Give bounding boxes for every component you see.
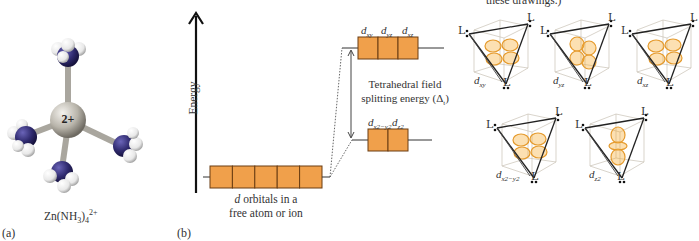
lone-pair-dot [529, 25, 532, 28]
cube-edge [502, 114, 528, 124]
orbital-lobe [513, 134, 529, 146]
ligand-label: L [555, 105, 562, 118]
tetrahedron-edge [497, 118, 556, 128]
ligand-label: L [690, 11, 697, 24]
ligand-label: L [575, 118, 582, 131]
ligand-label: L [503, 76, 510, 89]
tetrahedron-edge [550, 24, 609, 34]
tetra-label-dxz: dxz [637, 74, 648, 89]
ligand-label: L [540, 24, 547, 37]
orbital-lobe [649, 53, 665, 65]
tetra-label-dx2-y2: dx2−y2 [496, 168, 519, 183]
ligand-label: L [458, 24, 465, 37]
lone-pair-dot [557, 119, 560, 122]
lone-pair-dot [629, 30, 632, 33]
lone-pair-dot [692, 25, 695, 28]
orbital-lobe [665, 39, 681, 51]
cube-edge [474, 20, 500, 30]
tetrahedron-edge [469, 24, 528, 34]
cube-edge [555, 20, 581, 30]
orbital-lobe [485, 40, 501, 52]
ligand-label: L [531, 170, 538, 183]
tetrahedra-drawings [0, 0, 699, 241]
orbital-lobe [611, 127, 625, 143]
ligand-label: L [608, 11, 615, 24]
ligand-label: L [584, 76, 591, 89]
lone-pair-dot [629, 35, 632, 38]
lone-pair-dot [494, 129, 497, 132]
ligand-label: L [666, 76, 673, 89]
orbital-lobe [514, 147, 530, 159]
orbital-lobe [609, 142, 627, 150]
tetrahedron-edge [632, 24, 691, 34]
cube-edge [590, 114, 616, 124]
tetra-label-dz2: dz2 [589, 168, 601, 183]
orbital-lobe [648, 40, 664, 52]
ligand-label: L [617, 170, 624, 183]
orbital-lobe [486, 53, 502, 65]
lone-pair-dot [466, 30, 469, 33]
ligand-label: L [641, 105, 648, 118]
ligand-label: L [527, 11, 534, 24]
orbital-lobe [502, 39, 518, 51]
tetrahedron-edge [585, 118, 644, 128]
ligand-label: L [621, 24, 628, 37]
ligand-label: L [486, 118, 493, 131]
lone-pair-dot [645, 119, 648, 122]
orbital-lobe [530, 133, 546, 145]
tetra-label-dxy: dxy [474, 74, 486, 89]
tetra-label-dyz: dyz [553, 74, 564, 89]
lone-pair-dot [466, 35, 469, 38]
orbital-lobe [582, 41, 596, 55]
cube-edge [637, 20, 663, 30]
lone-pair-dot [494, 124, 497, 127]
orbital-lobe [611, 149, 625, 165]
lone-pair-dot [610, 25, 613, 28]
